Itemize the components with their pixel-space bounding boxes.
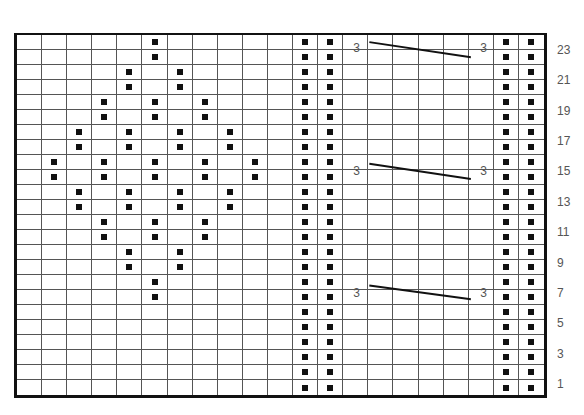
chart-cell <box>67 95 92 110</box>
purl-dot-icon <box>152 294 158 300</box>
chart-cell <box>168 230 193 245</box>
chart-cell <box>67 335 92 350</box>
purl-dot-icon <box>227 129 233 135</box>
chart-cell <box>343 230 368 245</box>
chart-cell <box>293 110 318 125</box>
chart-cell <box>117 215 142 230</box>
purl-dot-icon <box>528 204 534 210</box>
chart-cell <box>168 335 193 350</box>
chart-cell <box>92 335 117 350</box>
chart-cell <box>469 320 494 335</box>
purl-dot-icon <box>152 39 158 45</box>
chart-cell <box>494 290 519 305</box>
chart-cell <box>92 305 117 320</box>
purl-dot-icon <box>528 324 534 330</box>
chart-cell <box>268 380 293 395</box>
chart-cell <box>67 50 92 65</box>
chart-cell <box>142 80 167 95</box>
chart-cell <box>218 65 243 80</box>
chart-cell <box>469 140 494 155</box>
purl-dot-icon <box>152 279 158 285</box>
chart-cell <box>268 215 293 230</box>
chart-cell <box>293 35 318 50</box>
chart-cell <box>519 80 544 95</box>
chart-cell <box>368 380 393 395</box>
chart-cell <box>92 140 117 155</box>
chart-cell <box>67 185 92 200</box>
chart-cell <box>368 275 393 290</box>
chart-cell <box>168 305 193 320</box>
chart-cell <box>218 80 243 95</box>
purl-dot-icon <box>327 69 333 75</box>
purl-dot-icon <box>126 69 132 75</box>
chart-cell <box>268 140 293 155</box>
chart-cell <box>218 185 243 200</box>
purl-dot-icon <box>327 129 333 135</box>
chart-cell <box>67 380 92 395</box>
chart-cell <box>168 155 193 170</box>
purl-dot-icon <box>503 159 509 165</box>
chart-cell <box>17 230 42 245</box>
chart-cell <box>17 80 42 95</box>
chart-cell <box>519 290 544 305</box>
purl-dot-icon <box>152 114 158 120</box>
chart-cell <box>343 200 368 215</box>
chart-cell <box>17 335 42 350</box>
purl-dot-icon <box>177 189 183 195</box>
chart-cell <box>494 80 519 95</box>
chart-cell <box>393 230 418 245</box>
knitting-chart: 333333 <box>14 33 547 398</box>
purl-dot-icon <box>528 129 534 135</box>
chart-cell <box>218 170 243 185</box>
chart-cell <box>494 365 519 380</box>
chart-cell <box>293 65 318 80</box>
row-label: 15 <box>557 164 570 178</box>
chart-cell <box>444 335 469 350</box>
chart-cell <box>519 260 544 275</box>
chart-cell <box>519 140 544 155</box>
chart-cell <box>393 155 418 170</box>
chart-cell <box>293 200 318 215</box>
cable-count-left: 3 <box>353 286 360 300</box>
chart-cell <box>17 215 42 230</box>
chart-cell <box>42 80 67 95</box>
chart-cell <box>393 170 418 185</box>
purl-dot-icon <box>327 354 333 360</box>
chart-cell <box>243 230 268 245</box>
chart-cell <box>117 260 142 275</box>
purl-dot-icon <box>327 159 333 165</box>
chart-cell <box>519 335 544 350</box>
chart-cell <box>17 275 42 290</box>
chart-cell <box>142 245 167 260</box>
chart-cell <box>218 215 243 230</box>
chart-cell <box>519 230 544 245</box>
purl-dot-icon <box>76 189 82 195</box>
chart-cell <box>17 290 42 305</box>
chart-cell <box>368 185 393 200</box>
purl-dot-icon <box>503 144 509 150</box>
chart-cell <box>318 110 343 125</box>
chart-cell <box>343 80 368 95</box>
chart-cell <box>519 365 544 380</box>
chart-cell <box>494 200 519 215</box>
chart-cell <box>318 260 343 275</box>
chart-cell <box>444 305 469 320</box>
purl-dot-icon <box>528 264 534 270</box>
chart-cell <box>218 230 243 245</box>
chart-cell <box>92 65 117 80</box>
chart-cell <box>368 260 393 275</box>
purl-dot-icon <box>177 84 183 90</box>
chart-cell <box>469 110 494 125</box>
chart-cell <box>117 200 142 215</box>
purl-dot-icon <box>503 129 509 135</box>
purl-dot-icon <box>503 174 509 180</box>
purl-dot-icon <box>177 129 183 135</box>
chart-cell <box>117 350 142 365</box>
chart-cell <box>92 170 117 185</box>
chart-cell <box>419 170 444 185</box>
chart-cell <box>42 215 67 230</box>
chart-cell <box>368 200 393 215</box>
chart-cell <box>444 170 469 185</box>
chart-cell <box>343 185 368 200</box>
chart-cell <box>193 80 218 95</box>
